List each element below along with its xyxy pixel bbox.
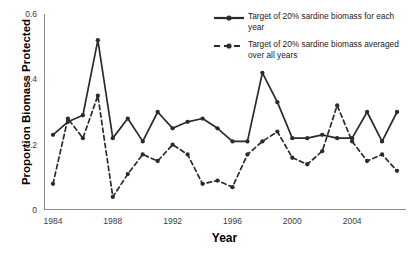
legend-item-each-year: Target of 20% sardine biomass for each y… <box>214 11 414 32</box>
data-point <box>170 126 174 130</box>
data-point <box>305 162 309 166</box>
y-tick-label: 0.6 <box>11 9 37 19</box>
data-point <box>81 136 85 140</box>
legend-key-dashed-line-icon <box>214 40 244 52</box>
data-point <box>51 182 55 186</box>
legend-label-averaged: Target of 20% sardine biomass averaged o… <box>248 39 408 60</box>
data-point <box>365 159 369 163</box>
data-point <box>200 182 204 186</box>
data-point <box>365 110 369 114</box>
data-point <box>260 139 264 143</box>
y-tick-label: 0.2 <box>11 140 37 150</box>
x-tick-label: 1984 <box>33 216 73 226</box>
data-point <box>380 139 384 143</box>
data-point <box>51 133 55 137</box>
data-point <box>111 195 115 199</box>
data-point <box>81 113 85 117</box>
data-point <box>350 139 354 143</box>
data-point <box>96 94 100 98</box>
data-point <box>185 152 189 156</box>
data-point <box>395 169 399 173</box>
data-point <box>245 139 249 143</box>
data-point <box>215 126 219 130</box>
x-tick-label: 2004 <box>332 216 372 226</box>
data-point <box>275 100 279 104</box>
data-point <box>245 152 249 156</box>
chart-figure: Proportion Biomass Protected 00.20.40.6 … <box>0 0 419 258</box>
data-point <box>96 38 100 42</box>
legend-key-solid-line-icon <box>214 12 244 24</box>
legend-label-each-year: Target of 20% sardine biomass for each y… <box>248 11 408 32</box>
data-point <box>156 110 160 114</box>
y-tick-label: 0 <box>11 205 37 215</box>
data-point <box>156 159 160 163</box>
data-point <box>290 136 294 140</box>
x-tick-label: 1988 <box>93 216 133 226</box>
x-tick-label: 1996 <box>212 216 252 226</box>
legend-item-averaged: Target of 20% sardine biomass averaged o… <box>214 39 414 60</box>
data-point <box>230 185 234 189</box>
data-point <box>126 172 130 176</box>
data-point <box>111 136 115 140</box>
data-point <box>335 103 339 107</box>
data-point <box>170 143 174 147</box>
data-point <box>275 129 279 133</box>
chart-legend: Target of 20% sardine biomass for each y… <box>214 11 414 67</box>
data-point <box>215 178 219 182</box>
y-tick-label: 0.4 <box>11 74 37 84</box>
data-point <box>185 120 189 124</box>
data-point <box>320 149 324 153</box>
data-point <box>290 156 294 160</box>
x-axis-title: Year <box>0 231 419 245</box>
x-tick-label: 1992 <box>153 216 193 226</box>
data-point <box>126 116 130 120</box>
series-line-1 <box>53 96 397 197</box>
data-point <box>141 152 145 156</box>
data-point <box>260 71 264 75</box>
data-point <box>395 110 399 114</box>
data-point <box>380 152 384 156</box>
data-point <box>335 136 339 140</box>
data-point <box>305 136 309 140</box>
data-point <box>66 116 70 120</box>
data-point <box>230 139 234 143</box>
y-axis-title: Proportion Biomass Protected <box>20 2 32 202</box>
data-point <box>200 116 204 120</box>
x-tick-label: 2000 <box>272 216 312 226</box>
data-point <box>141 139 145 143</box>
data-point <box>320 133 324 137</box>
